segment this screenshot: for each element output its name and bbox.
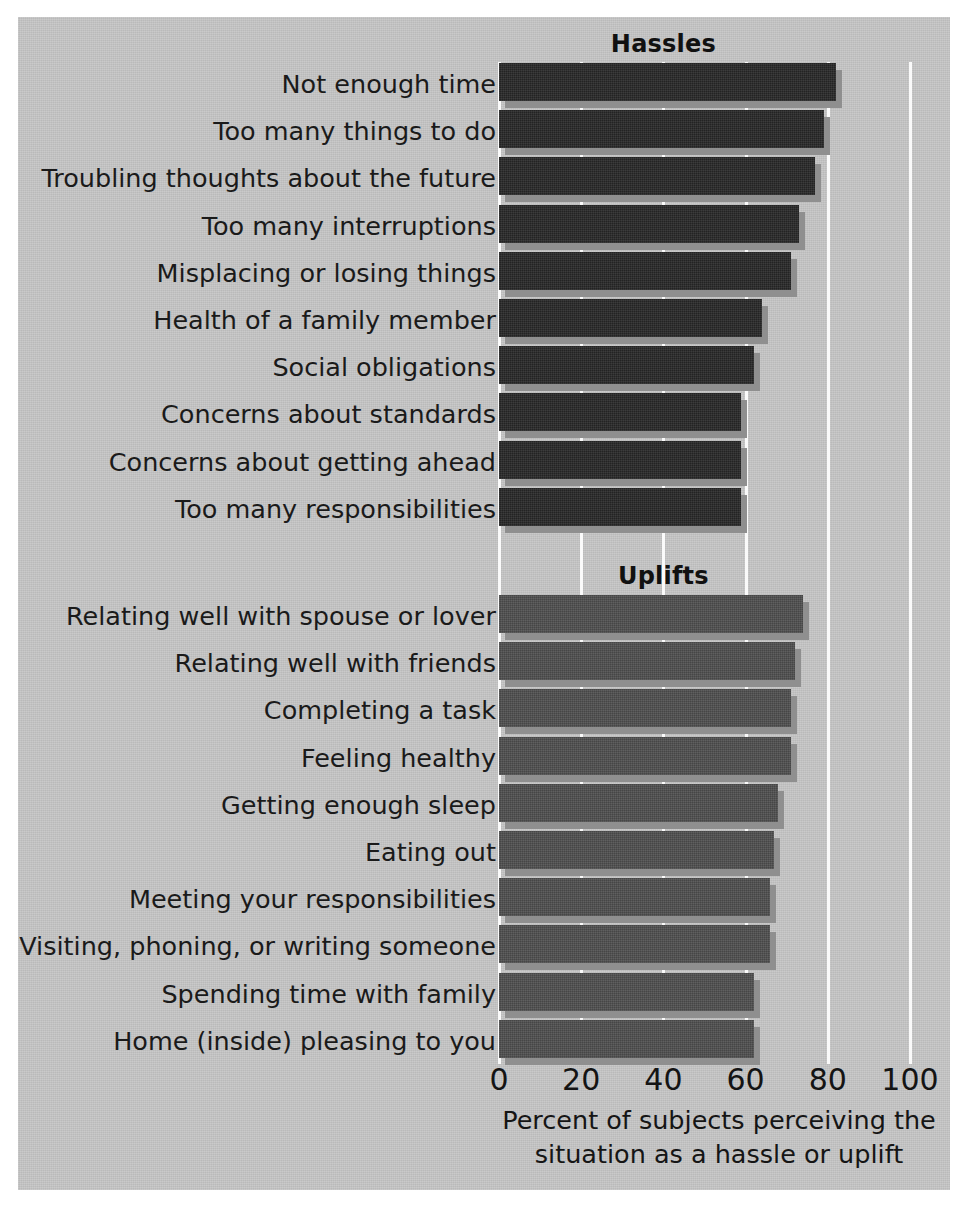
bar <box>499 205 799 243</box>
bar-category-label: Feeling healthy <box>301 739 496 777</box>
x-tick-label-40: 40 <box>644 1062 682 1097</box>
bar <box>499 157 815 195</box>
x-tick-label-80: 80 <box>809 1062 847 1097</box>
bar-row: Feeling healthy <box>18 737 950 783</box>
bar-row: Troubling thoughts about the future <box>18 157 950 203</box>
bar-row: Getting enough sleep <box>18 784 950 830</box>
bar-row: Meeting your responsibilities <box>18 878 950 924</box>
x-tick-label-20: 20 <box>562 1062 600 1097</box>
bar-category-label: Relating well with friends <box>175 644 496 682</box>
bar-category-label: Spending time with family <box>161 975 496 1013</box>
bar <box>499 441 741 479</box>
bar-category-label: Home (inside) pleasing to you <box>113 1022 496 1060</box>
bar <box>499 878 770 916</box>
bar-category-label: Visiting, phoning, or writing someone <box>19 927 496 965</box>
bar <box>499 252 791 290</box>
bar-category-label: Health of a family member <box>153 301 496 339</box>
bar-category-label: Relating well with spouse or lover <box>66 597 496 635</box>
bar-category-label: Concerns about standards <box>161 395 496 433</box>
bar-row: Completing a task <box>18 689 950 735</box>
bar <box>499 299 762 337</box>
bar <box>499 642 795 680</box>
bar-row: Health of a family member <box>18 299 950 345</box>
bar <box>499 973 754 1011</box>
bar <box>499 595 803 633</box>
section-title-uplifts: Uplifts <box>618 562 709 590</box>
x-axis-caption-line-1: Percent of subjects perceiving the <box>499 1103 939 1137</box>
bar-category-label: Completing a task <box>264 691 496 729</box>
bar <box>499 63 836 101</box>
chart-figure: HasslesNot enough timeToo many things to… <box>18 17 950 1190</box>
bar-category-label: Getting enough sleep <box>221 786 496 824</box>
bar <box>499 393 741 431</box>
bar <box>499 110 824 148</box>
bar-category-label: Too many interruptions <box>202 207 496 245</box>
bar <box>499 784 778 822</box>
bar-row: Misplacing or losing things <box>18 252 950 298</box>
bar-row: Relating well with friends <box>18 642 950 688</box>
x-tick-label-60: 60 <box>727 1062 765 1097</box>
x-tick-label-100: 100 <box>881 1062 938 1097</box>
bar <box>499 925 770 963</box>
bar-category-label: Not enough time <box>282 65 496 103</box>
bar <box>499 689 791 727</box>
bar-category-label: Too many responsibilities <box>175 490 496 528</box>
bar <box>499 831 774 869</box>
bar-row: Too many things to do <box>18 110 950 156</box>
bar-category-label: Eating out <box>365 833 496 871</box>
x-axis-caption-line-2: situation as a hassle or uplift <box>499 1137 939 1171</box>
bar-row: Home (inside) pleasing to you <box>18 1020 950 1066</box>
bar-row: Too many responsibilities <box>18 488 950 534</box>
bar-row: Not enough time <box>18 63 950 109</box>
section-title-hassles: Hassles <box>611 30 716 58</box>
bar-category-label: Misplacing or losing things <box>157 254 496 292</box>
bar-category-label: Troubling thoughts about the future <box>41 159 496 197</box>
bar-category-label: Concerns about getting ahead <box>109 443 496 481</box>
plot-area: HasslesNot enough timeToo many things to… <box>18 17 950 1190</box>
bar-category-label: Too many things to do <box>213 112 496 150</box>
bar <box>499 488 741 526</box>
bar-row: Too many interruptions <box>18 205 950 251</box>
bar-row: Social obligations <box>18 346 950 392</box>
bar <box>499 346 754 384</box>
bar-category-label: Social obligations <box>272 348 496 386</box>
bar-row: Visiting, phoning, or writing someone <box>18 925 950 971</box>
bar-row: Relating well with spouse or lover <box>18 595 950 641</box>
bar-row: Concerns about standards <box>18 393 950 439</box>
bar <box>499 1020 754 1058</box>
x-axis-caption: Percent of subjects perceiving the situa… <box>499 1103 939 1171</box>
bar-row: Concerns about getting ahead <box>18 441 950 487</box>
x-tick-label-0: 0 <box>489 1062 508 1097</box>
bar-row: Spending time with family <box>18 973 950 1019</box>
bar-category-label: Meeting your responsibilities <box>129 880 496 918</box>
bar-row: Eating out <box>18 831 950 877</box>
bar <box>499 737 791 775</box>
